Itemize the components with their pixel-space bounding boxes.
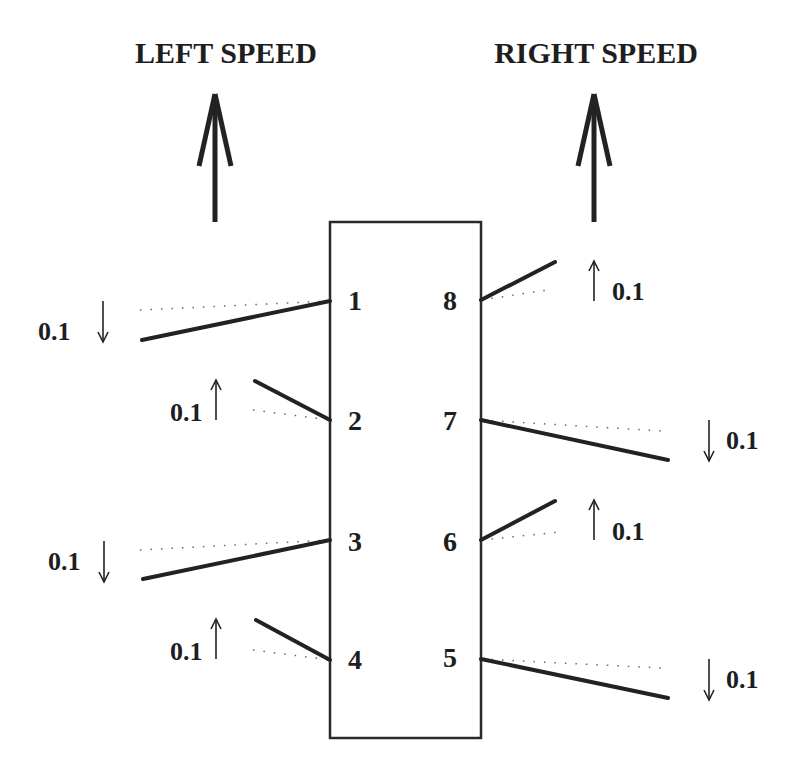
sensor-7-label: 7 <box>443 405 457 436</box>
robot-sensor-diagram: LEFT SPEED RIGHT SPEED 1 2 3 4 5 6 7 8 0… <box>0 0 806 776</box>
sensor-2-label: 2 <box>348 405 362 436</box>
down-arrow-icon <box>98 301 108 342</box>
up-arrow-icon <box>211 380 221 420</box>
sensor-3-weight-line <box>140 540 330 579</box>
sensor-5-change-value: 0.1 <box>726 665 759 694</box>
sensor-1-label: 1 <box>348 285 362 316</box>
sensor-5-label: 5 <box>443 642 457 673</box>
sensor-8-label: 8 <box>443 285 457 316</box>
sensor-4-label: 4 <box>348 644 362 675</box>
sensor-3-change-value: 0.1 <box>48 547 81 576</box>
sensor-2-weight-line <box>253 381 330 420</box>
sensor-4-weight-line <box>253 620 330 660</box>
up-arrow-icon <box>589 500 599 540</box>
left-speed-arrow-icon <box>199 94 231 222</box>
sensor-6-label: 6 <box>443 526 457 557</box>
sensor-8-weight-line <box>481 262 555 300</box>
sensor-1-weight-line <box>140 301 330 340</box>
sensor-3-label: 3 <box>348 526 362 557</box>
left-speed-title: LEFT SPEED <box>135 36 317 69</box>
down-arrow-icon <box>704 659 714 700</box>
sensor-7-weight-line <box>481 420 668 460</box>
sensor-7-change-value: 0.1 <box>726 426 759 455</box>
down-arrow-icon <box>704 420 714 461</box>
sensor-5-weight-line <box>481 659 668 698</box>
sensor-6-weight-line <box>481 501 560 540</box>
sensor-6-change-value: 0.1 <box>612 517 645 546</box>
sensor-4-change-value: 0.1 <box>170 637 203 666</box>
sensor-2-change-value: 0.1 <box>170 398 203 427</box>
up-arrow-icon <box>589 261 599 301</box>
down-arrow-icon <box>99 541 109 582</box>
right-speed-title: RIGHT SPEED <box>494 36 698 69</box>
sensor-1-change-value: 0.1 <box>38 317 71 346</box>
sensor-8-change-value: 0.1 <box>612 277 645 306</box>
up-arrow-icon <box>211 619 221 659</box>
right-speed-arrow-icon <box>578 94 610 222</box>
